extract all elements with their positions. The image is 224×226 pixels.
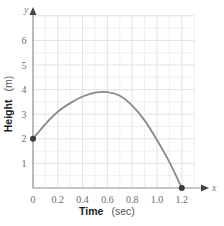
x-axis-arrow-icon [201, 185, 209, 192]
x-axis-title-main: Time [79, 205, 103, 217]
x-axis-letter: x [211, 182, 217, 193]
y-tick-label: 6 [22, 35, 27, 46]
data-point-start [30, 136, 36, 142]
x-tick-label: 0.2 [52, 194, 65, 205]
y-tick-label: 3 [22, 109, 27, 120]
y-axis-letter: y [23, 4, 29, 15]
x-tick-label: 1.0 [151, 194, 164, 205]
y-tick-labels: 123456 [22, 35, 27, 169]
x-tick-label: 0.8 [126, 194, 139, 205]
x-tick-labels: 00.20.40.60.81.01.2 [31, 194, 189, 205]
x-axis-title-unit: (sec) [112, 205, 135, 217]
y-tick-label: 2 [22, 133, 27, 144]
y-tick-label: 4 [22, 84, 27, 95]
chart-container: y x 00.20.40.60.81.01.2 123456 Time (sec… [0, 0, 224, 226]
y-axis-title: Height (m) [0, 76, 16, 133]
y-axis-title-unit: (m) [2, 76, 14, 92]
data-point-end [179, 185, 185, 191]
y-tick-label: 5 [22, 60, 27, 71]
x-tick-label: 0.4 [76, 194, 89, 205]
y-axis-title-main: Height [2, 99, 14, 132]
height-vs-time-chart: y x 00.20.40.60.81.01.2 123456 Time (sec… [0, 0, 224, 226]
x-tick-label: 0 [31, 194, 36, 205]
x-tick-label: 1.2 [176, 194, 189, 205]
y-axis-arrow-icon [30, 7, 37, 15]
y-tick-label: 1 [22, 158, 27, 169]
